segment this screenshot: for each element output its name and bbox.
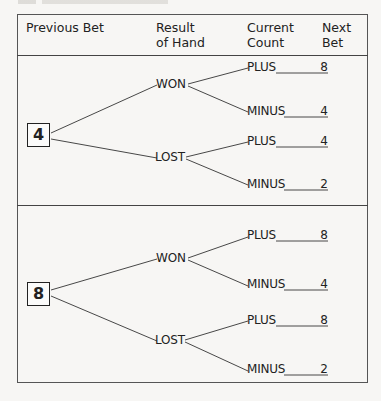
count-minus: MINUS xyxy=(247,278,285,291)
next-bet-value: 8 xyxy=(318,229,328,242)
count-plus: PLUS xyxy=(247,61,276,74)
next-bet-value: 4 xyxy=(318,135,328,148)
next-bet-value: 2 xyxy=(318,178,328,191)
next-bet-value: 4 xyxy=(318,105,328,118)
count-minus: MINUS xyxy=(247,363,285,376)
result-won: WON xyxy=(156,252,186,265)
next-bet-value: 8 xyxy=(318,61,328,74)
next-bet-value: 8 xyxy=(318,314,328,327)
count-plus: PLUS xyxy=(247,135,276,148)
previous-bet-box: 4 xyxy=(27,123,50,147)
result-lost: LOST xyxy=(155,334,185,347)
count-plus: PLUS xyxy=(247,229,276,242)
result-won: WON xyxy=(156,78,186,91)
next-bet-value: 4 xyxy=(318,278,328,291)
count-plus: PLUS xyxy=(247,314,276,327)
count-minus: MINUS xyxy=(247,178,285,191)
next-bet-value: 2 xyxy=(318,363,328,376)
result-lost: LOST xyxy=(155,151,185,164)
count-minus: MINUS xyxy=(247,105,285,118)
previous-bet-box: 8 xyxy=(27,282,50,306)
